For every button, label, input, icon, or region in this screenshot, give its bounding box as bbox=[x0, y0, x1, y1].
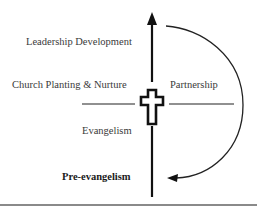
arrow-up-icon bbox=[147, 12, 157, 25]
bottom-rule bbox=[0, 204, 257, 206]
label-partnership: Partnership bbox=[170, 80, 218, 91]
vertical-axis-upper bbox=[147, 12, 157, 82]
label-leadership-development: Leadership Development bbox=[26, 37, 132, 48]
label-church-planting: Church Planting & Nurture bbox=[12, 80, 127, 91]
label-evangelism: Evangelism bbox=[82, 126, 132, 137]
label-pre-evangelism: Pre-evangelism bbox=[62, 172, 131, 183]
arrow-left-icon bbox=[167, 174, 178, 182]
cross-icon bbox=[141, 90, 163, 124]
